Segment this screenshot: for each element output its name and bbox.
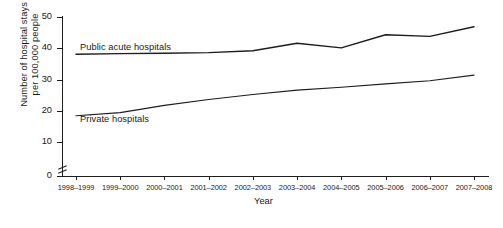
y-tick-label-50: 50 xyxy=(12,12,52,21)
y-axis-line xyxy=(62,16,63,177)
x-tick-1 xyxy=(120,176,121,180)
x-tick-5 xyxy=(297,176,298,180)
x-tick-6 xyxy=(341,176,342,180)
y-tick-label-0: 0 xyxy=(12,171,52,180)
x-tick-label-2007–2008: 2007–2008 xyxy=(456,183,493,192)
plot-area xyxy=(0,0,503,228)
x-tick-label-2006–2007: 2006–2007 xyxy=(411,183,448,192)
x-tick-label-1998–1999: 1998–1999 xyxy=(58,183,95,192)
x-tick-4 xyxy=(253,176,254,180)
y-axis-title-line-1: Number of hospital stays xyxy=(19,0,30,144)
x-tick-3 xyxy=(209,176,210,180)
x-tick-7 xyxy=(386,176,387,180)
x-axis-title-text: Year xyxy=(254,196,273,206)
x-tick-label-2001–2002: 2001–2002 xyxy=(190,183,227,192)
x-tick-label-2000–2001: 2000–2001 xyxy=(146,183,183,192)
y-axis-title: Number of hospital stays per 100,000 peo… xyxy=(19,0,42,144)
axis-break-icon xyxy=(58,164,67,176)
x-tick-label-2003–2004: 2003–2004 xyxy=(279,183,316,192)
x-tick-label-2002–2003: 2002–2003 xyxy=(235,183,272,192)
y-tick-label-10: 10 xyxy=(12,137,52,146)
series-label-public-acute-hospitals: Public acute hospitals xyxy=(80,42,171,52)
series-label-private-hospitals: Private hospitals xyxy=(80,114,149,124)
x-tick-2 xyxy=(164,176,165,180)
y-tick-label-20: 20 xyxy=(12,106,52,115)
x-tick-8 xyxy=(430,176,431,180)
x-tick-label-2004–2005: 2004–2005 xyxy=(323,183,360,192)
x-tick-9 xyxy=(474,176,475,180)
x-axis-line xyxy=(62,176,489,177)
x-tick-label-1999–2000: 1999–2000 xyxy=(102,183,139,192)
y-axis-title-line-2: per 100,000 people xyxy=(30,0,41,144)
x-axis-title: Year xyxy=(0,196,503,206)
y-tick-label-40: 40 xyxy=(12,43,52,52)
x-tick-label-2005–2006: 2005–2006 xyxy=(367,183,404,192)
y-tick-label-30: 30 xyxy=(12,75,52,84)
series-line-private-hospitals xyxy=(76,75,474,116)
x-tick-0 xyxy=(76,176,77,180)
line-chart: Number of hospital stays per 100,000 peo… xyxy=(0,0,503,228)
